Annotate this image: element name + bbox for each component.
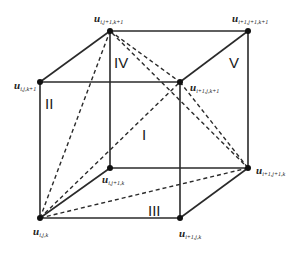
vertex-C <box>37 79 43 85</box>
diagonal-G-F <box>112 33 246 166</box>
edge-B-F <box>180 168 248 218</box>
vertex-D <box>177 79 183 85</box>
label-vertex-D: ui+1,j,k+1 <box>190 81 219 94</box>
vertex-G <box>107 28 113 34</box>
label-vertex-H: ui+1,j+1,k+1 <box>232 12 268 25</box>
region-label-IV: IV <box>114 54 128 71</box>
region-label-I: I <box>142 126 146 143</box>
vertex-A <box>37 215 43 221</box>
vertex-F <box>245 165 251 171</box>
region-label-II: II <box>45 95 53 112</box>
region-label-III: III <box>148 202 161 219</box>
vertex-H <box>245 28 251 34</box>
edge-A-E <box>40 168 110 218</box>
label-vertex-F: ui+1,j+1,k <box>256 164 286 177</box>
vertex-dots <box>37 28 251 221</box>
label-vertex-A: ui,j,k <box>33 225 48 238</box>
diagonal-A-G <box>40 31 110 218</box>
region-label-V: V <box>229 54 239 71</box>
diagonal-A-F <box>40 168 248 218</box>
edge-C-G <box>40 31 110 82</box>
cube-diagram: ui,j+1,k+1 ui+1,j+1,k+1 ui,j,k+1 ui+1,j,… <box>0 0 303 253</box>
label-vertex-E: ui,j+1,k <box>102 173 125 186</box>
label-vertex-C: ui,j,k+1 <box>14 79 36 92</box>
solid-edges <box>40 31 248 218</box>
label-vertex-B: ui+1,j,k <box>179 227 202 240</box>
vertex-B <box>177 215 183 221</box>
vertex-E <box>107 165 113 171</box>
label-vertex-G: ui,j+1,k+1 <box>94 12 123 25</box>
diagonal-D-F <box>180 82 248 168</box>
